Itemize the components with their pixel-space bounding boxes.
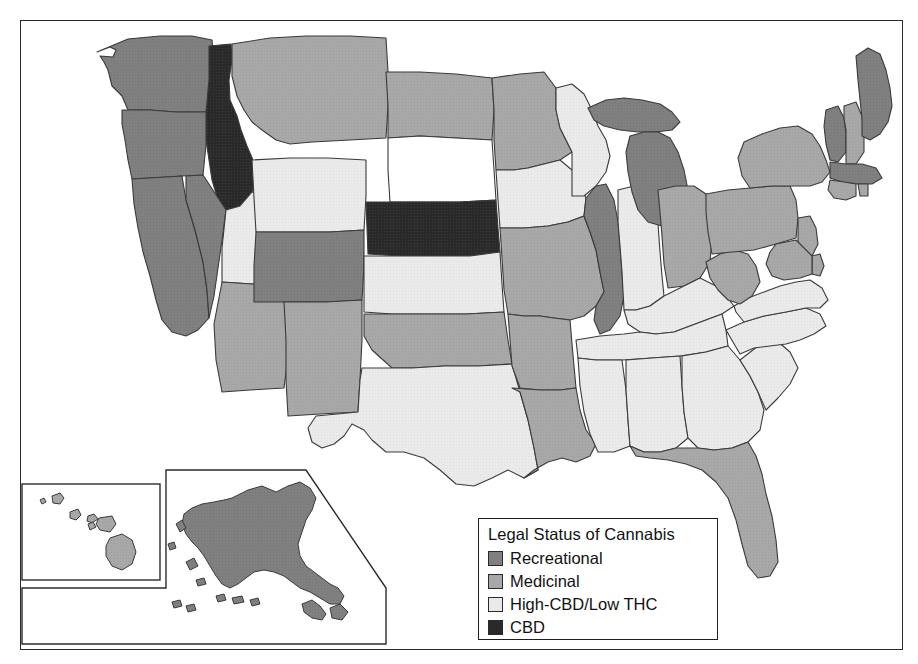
map-figure: Legal Status of Cannabis Recreational Me… [0,0,918,664]
legend-title: Legal Status of Cannabis [488,524,717,545]
legend-label-cbd: CBD [510,617,545,638]
alaska-inset-svg [0,0,918,664]
legend-swatch-medicinal [488,574,503,589]
legend-label-medicinal: Medicinal [510,571,580,592]
legend-label-recreational: Recreational [510,548,603,569]
legend-swatch-recreational [488,551,503,566]
legend-item-cbd: CBD [488,616,717,639]
legend-item-highcbd: High-CBD/Low THC [488,593,717,616]
legend-item-medicinal: Medicinal [488,570,717,593]
legend-swatch-cbd [488,620,503,635]
legend-item-recreational: Recreational [488,547,717,570]
legend-label-highcbd: High-CBD/Low THC [510,594,657,615]
legend-swatch-highcbd [488,597,503,612]
legend-box: Legal Status of Cannabis Recreational Me… [478,518,718,640]
